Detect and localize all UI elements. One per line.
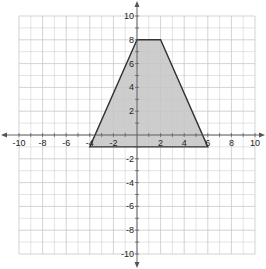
y-tick-label: 2 xyxy=(129,106,134,116)
y-tick-label: -10 xyxy=(121,249,134,259)
x-tick-label: 4 xyxy=(182,138,187,148)
coordinate-plane: -10-8-6-4-2246810108642-2-4-6-8-10 xyxy=(0,0,266,269)
x-tick-label: 10 xyxy=(250,138,260,148)
y-tick-label: 4 xyxy=(129,82,134,92)
y-tick-label: -6 xyxy=(126,201,134,211)
y-tick-label: -8 xyxy=(126,225,134,235)
y-tick-label: 8 xyxy=(129,35,134,45)
x-axis-left-arrow-icon xyxy=(1,133,7,138)
y-axis-down-arrow-icon xyxy=(135,262,140,268)
x-tick-label: -2 xyxy=(109,138,117,148)
x-tick-label: -6 xyxy=(62,138,70,148)
x-tick-label: 8 xyxy=(229,138,234,148)
x-tick-label: 2 xyxy=(158,138,163,148)
x-tick-label: -10 xyxy=(12,138,25,148)
y-tick-label: 10 xyxy=(124,11,134,21)
x-tick-label: -8 xyxy=(39,138,47,148)
x-tick-label: 6 xyxy=(205,138,210,148)
x-tick-label: -4 xyxy=(86,138,94,148)
trapezoid-shape xyxy=(90,40,208,147)
y-tick-label: -4 xyxy=(126,178,134,188)
y-tick-label: 6 xyxy=(129,59,134,69)
y-tick-label: -2 xyxy=(126,154,134,164)
y-axis-up-arrow-icon xyxy=(135,1,140,7)
x-axis-right-arrow-icon xyxy=(259,133,265,138)
